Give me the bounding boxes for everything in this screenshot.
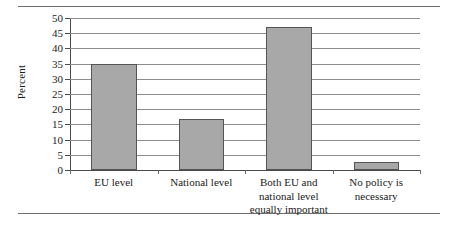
y-axis-tick-label: 10 <box>41 134 63 145</box>
y-axis-tick-label: 45 <box>41 28 63 39</box>
y-axis-tick <box>65 124 70 125</box>
x-axis-category-label: EU level <box>70 176 158 190</box>
y-axis-tick-label: 20 <box>41 104 63 115</box>
y-axis-tick-label: 50 <box>41 13 63 24</box>
y-axis-tick-label: 35 <box>41 58 63 69</box>
y-axis-label: Percent <box>15 47 27 117</box>
figure-top-rule <box>18 6 440 7</box>
y-axis-tick <box>65 64 70 65</box>
y-axis-tick-label: 0 <box>41 165 63 176</box>
x-axis-category-label: Both EU and national level equally impor… <box>245 176 333 217</box>
bar <box>266 27 312 170</box>
figure-bottom-rule <box>18 213 440 214</box>
gridline <box>70 48 420 49</box>
x-axis-category-label: No policy is necessary <box>333 176 421 203</box>
x-axis-tick <box>245 170 246 174</box>
y-axis-tick <box>65 33 70 34</box>
x-axis-tick <box>70 170 71 174</box>
y-axis-tick <box>65 18 70 19</box>
x-axis-tick <box>158 170 159 174</box>
bar-chart-figure: Percent 05101520253035404550 EU levelNat… <box>0 0 456 225</box>
bar <box>91 64 137 170</box>
y-axis-tick <box>65 140 70 141</box>
y-axis-tick <box>65 79 70 80</box>
plot-area: 05101520253035404550 EU levelNational le… <box>70 18 420 170</box>
y-axis-tick-label: 40 <box>41 43 63 54</box>
y-axis-tick-label: 15 <box>41 119 63 130</box>
y-axis-tick <box>65 48 70 49</box>
gridline <box>70 33 420 34</box>
y-axis-tick <box>65 109 70 110</box>
y-axis-tick-label: 5 <box>41 149 63 160</box>
bar <box>179 119 225 170</box>
y-axis-tick-label: 25 <box>41 89 63 100</box>
bar <box>354 162 400 170</box>
x-axis-tick <box>420 170 421 174</box>
y-axis-tick <box>65 155 70 156</box>
x-axis-tick <box>333 170 334 174</box>
gridline <box>70 18 420 19</box>
y-axis-tick <box>65 94 70 95</box>
y-axis-tick-label: 30 <box>41 73 63 84</box>
x-axis-category-label: National level <box>158 176 246 190</box>
